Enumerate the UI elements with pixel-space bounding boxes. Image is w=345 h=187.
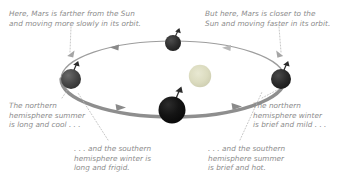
caption-southern-summer: . . . and the southern hemisphere summer… — [208, 144, 313, 173]
sun — [189, 65, 211, 87]
mars-right-axis-arrowhead — [283, 61, 289, 66]
mars-top — [165, 28, 181, 51]
leader-arrowhead-left — [67, 51, 74, 58]
caption-far-from-sun: Here, Mars is farther from the Sun and m… — [9, 9, 169, 28]
orbit-direction-arrow-top-left — [110, 45, 119, 51]
mars-bottom-axis-arrowhead — [175, 87, 182, 93]
caption-northern-winter: The northern hemisphere winter is brief … — [253, 101, 345, 130]
leader-line-far-sun — [70, 27, 71, 52]
leader-line-near-sun — [279, 27, 281, 52]
mars-right — [271, 61, 291, 89]
orbit-direction-arrow-bottom-left — [116, 104, 127, 111]
mars-top-axis-arrowhead — [175, 28, 181, 33]
mars-left — [61, 61, 81, 89]
caption-near-to-sun: But here, Mars is closer to the Sun and … — [205, 9, 345, 28]
mars-bottom — [159, 87, 186, 124]
leader-arrowhead-right — [276, 51, 283, 58]
caption-southern-winter: . . . and the southern hemisphere winter… — [74, 144, 184, 173]
caption-northern-summer: The northern hemisphere summer is long a… — [9, 101, 104, 130]
mars-orbit-diagram: Here, Mars is farther from the Sun and m… — [0, 0, 345, 187]
mars-left-axis-arrowhead — [73, 61, 79, 66]
